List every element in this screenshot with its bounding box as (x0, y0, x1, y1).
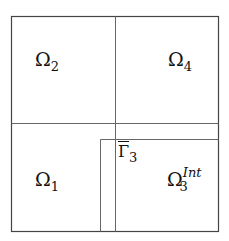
domain-decomposition-diagram: Ω2 Ω4 Ω1 ΩInt3 Γ3 (0, 0, 229, 241)
region-label-omega3-int: ΩInt3 (167, 170, 188, 189)
region-label-omega2: Ω2 (35, 50, 59, 73)
region-label-omega1: Ω1 (35, 170, 59, 193)
region-label-omega4: Ω4 (168, 50, 192, 73)
diagram-lines (0, 0, 229, 241)
interface-label-gamma3: Γ3 (118, 144, 137, 164)
